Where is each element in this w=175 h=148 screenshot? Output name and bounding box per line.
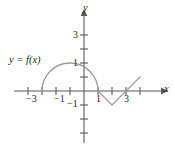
y-axis-label: y: [83, 3, 88, 14]
y-tick-label-neg1: −1: [67, 99, 78, 109]
y-tick-label-1: 1: [73, 58, 78, 68]
semicircle-curve: [42, 63, 98, 91]
x-axis-label: x: [164, 84, 169, 95]
graph-canvas: [0, 0, 175, 148]
function-label: y = f(x): [9, 55, 41, 66]
x-tick-label-neg3: −3: [26, 94, 37, 104]
x-tick-label-3: 3: [124, 94, 129, 104]
x-tick-label-neg1: −1: [54, 94, 65, 104]
x-tick-label-1: 1: [96, 94, 101, 104]
figure-container: y = f(x) x y −3 −1 1 3 3 1 −1: [0, 0, 175, 148]
y-tick-label-3: 3: [73, 30, 78, 40]
